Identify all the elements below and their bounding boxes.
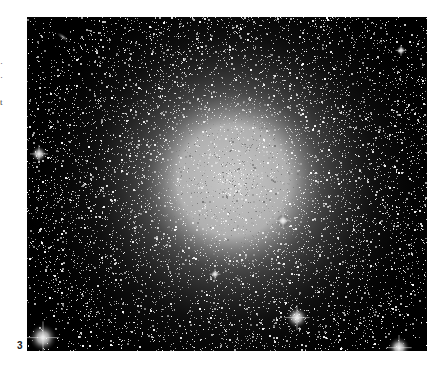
starfield-canvas	[27, 17, 427, 351]
text-fragment-1: ·	[0, 58, 3, 68]
figure-label: 3	[17, 340, 23, 351]
star-cluster-image	[27, 17, 427, 351]
text-fragment-2: ·	[0, 72, 3, 82]
text-fragment-3: t	[0, 97, 3, 107]
